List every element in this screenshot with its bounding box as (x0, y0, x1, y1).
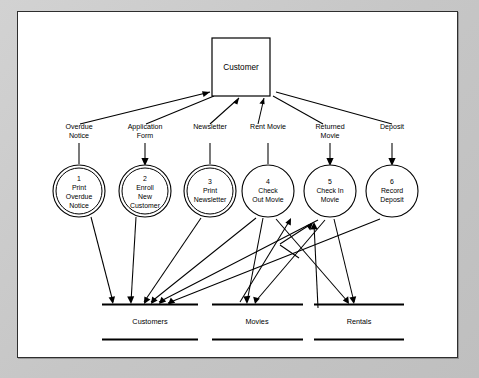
store-customers-label: Customers (132, 317, 168, 326)
process-4-line1: Check (258, 187, 278, 194)
process-1-outer-circle (53, 165, 105, 217)
flow-label-line1: Application (128, 123, 163, 131)
arrowhead-p4-movies (243, 296, 250, 304)
arrowhead-p1-customers (109, 296, 115, 304)
store-rentals-label: Rentals (347, 317, 372, 326)
process-2-line2: New (138, 193, 152, 200)
process-3-line1: Print (203, 187, 217, 194)
flow-label-line1: Returned (315, 123, 344, 131)
process-2-line3: Customer (130, 202, 161, 209)
arrowhead-p2-customers (127, 296, 134, 304)
data-flow-diagram: Customer Overdue Notice Application Form (18, 12, 455, 355)
process-3-number: 3 (208, 178, 212, 185)
flow-p2-customers (131, 217, 136, 302)
process-4[interactable]: 4 Check Out Movie (242, 165, 294, 217)
flow-label-overdue-notice: Overdue Notice (65, 123, 92, 164)
process-5[interactable]: 5 Check In Movie (304, 165, 356, 217)
process-6-line1: Record (381, 187, 403, 194)
diagram-sheet: Customer Overdue Notice Application Form (17, 11, 458, 358)
process-1[interactable]: 1 Print Overdue Notice (53, 165, 105, 217)
process-1-line1: Print (72, 184, 86, 191)
arrowhead-movies-p4 (285, 218, 291, 225)
flow-label-line2: Movie (321, 132, 340, 140)
process-1-line3: Notice (69, 202, 89, 209)
entity-label: Customer (223, 63, 259, 72)
flows-to-stores (91, 217, 380, 308)
flow-line-overdue-notice (80, 92, 210, 124)
process-4-line2: Out Movie (252, 196, 284, 203)
process-6[interactable]: 6 Record Deposit (366, 165, 418, 217)
flow-label-line1: Overdue (65, 123, 92, 131)
process-2-number: 2 (143, 175, 147, 182)
flow-label-newsletter: Newsletter (193, 123, 227, 164)
flow-line-returned-movie (273, 96, 323, 124)
data-store-rentals[interactable]: Rentals (314, 305, 404, 340)
flow-p5-feedback-return (280, 245, 299, 258)
process-4-number: 4 (266, 178, 270, 185)
arrowhead-p5-rentals (349, 296, 356, 304)
store-movies-label: Movies (245, 317, 268, 326)
process-1-line2: Overdue (66, 193, 93, 200)
process-1-number: 1 (77, 175, 81, 182)
external-entity-customer[interactable]: Customer (212, 38, 270, 96)
process-5-line2: Movie (321, 196, 340, 203)
flow-label-deposit: Deposit (380, 123, 404, 166)
flow-p4-movies (247, 218, 263, 302)
process-5-number: 5 (328, 178, 332, 185)
flow-labels: Overdue Notice Application Form Newslett… (65, 123, 404, 166)
process-5-line1: Check In (316, 187, 343, 194)
arrowhead-p5-customers (159, 297, 166, 304)
data-store-movies[interactable]: Movies (212, 305, 303, 340)
flow-label-line2: Notice (69, 132, 89, 140)
data-store-customers[interactable]: Customers (102, 305, 198, 340)
flow-p6-customers (168, 219, 380, 303)
flow-label-line1: Deposit (380, 123, 404, 131)
process-6-number: 6 (390, 178, 394, 185)
process-2-line1: Enroll (136, 184, 154, 191)
data-stores: Customers Movies Rentals (102, 305, 404, 340)
arrowhead-overdue-notice (202, 91, 210, 97)
process-2[interactable]: 2 Enroll New Customer (119, 165, 171, 217)
flow-label-line1: Newsletter (193, 123, 227, 131)
flow-label-line2: Form (137, 132, 154, 140)
screenshot-frame: Customer Overdue Notice Application Form (0, 0, 479, 378)
process-3-line2: Newsletter (194, 196, 227, 203)
flow-label-line1: Rent Movie (250, 123, 286, 131)
flow-label-rent-movie: Rent Movie (250, 123, 286, 164)
process-2-outer-circle (119, 165, 171, 217)
flow-label-returned-movie: Returned Movie (315, 123, 344, 166)
process-3[interactable]: 3 Print Newsletter (184, 165, 236, 217)
flow-line-application-form (146, 96, 214, 124)
arrowhead-newsletter (233, 98, 239, 105)
flow-p3-customers (144, 218, 201, 302)
flow-label-application-form: Application Form (128, 123, 163, 166)
processes: 1 Print Overdue Notice 2 Enroll New Cust… (53, 165, 418, 217)
flow-p1-customers (91, 217, 113, 302)
arrowhead-rent-movie (259, 98, 264, 104)
process-6-line2: Deposit (380, 196, 403, 204)
